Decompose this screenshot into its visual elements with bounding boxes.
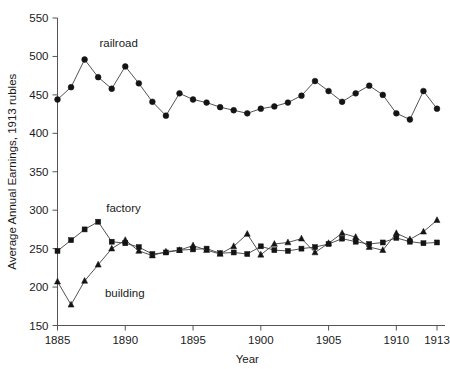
y-tick-label: 400: [29, 127, 48, 139]
data-point-circle: [177, 90, 183, 96]
data-point-circle: [95, 74, 101, 80]
y-tick-label: 550: [29, 12, 48, 24]
series-railroad: [55, 57, 440, 123]
data-point-circle: [366, 83, 372, 89]
data-point-circle: [122, 64, 128, 70]
data-point-triangle: [244, 231, 250, 237]
data-point-square: [82, 227, 87, 232]
data-point-square: [96, 219, 101, 224]
data-point-circle: [434, 106, 440, 112]
data-point-circle: [149, 99, 155, 105]
data-point-square: [245, 252, 250, 257]
series-layer: [55, 57, 441, 307]
data-point-square: [353, 239, 358, 244]
data-point-circle: [55, 97, 61, 103]
y-tick-label: 150: [29, 320, 48, 332]
data-point-square: [231, 250, 236, 255]
data-point-circle: [299, 93, 305, 99]
series-label-railroad: railroad: [100, 37, 138, 49]
y-tick-label: 500: [29, 50, 48, 62]
axes-layer: 1502002503003504004505005501885189018951…: [29, 12, 449, 346]
data-point-triangle: [298, 235, 304, 241]
data-point-circle: [271, 104, 277, 110]
data-point-triangle: [109, 245, 115, 251]
data-point-circle: [339, 99, 345, 105]
data-point-circle: [326, 88, 332, 94]
data-point-square: [380, 240, 385, 245]
x-tick-label: 1885: [45, 334, 71, 346]
data-point-triangle: [434, 217, 440, 223]
data-point-circle: [421, 88, 427, 94]
data-point-circle: [109, 86, 115, 92]
data-point-triangle: [55, 278, 61, 284]
y-axis-title: Average Annual Earnings, 1913 rubles: [6, 73, 18, 269]
data-point-circle: [231, 107, 237, 113]
data-point-triangle: [393, 230, 399, 236]
data-point-triangle: [190, 242, 196, 248]
data-point-square: [299, 246, 304, 251]
data-point-triangle: [68, 301, 74, 307]
y-tick-label: 450: [29, 89, 48, 101]
data-point-circle: [82, 57, 88, 63]
data-point-circle: [163, 113, 169, 119]
data-point-square: [285, 248, 290, 253]
x-tick-label: 1910: [384, 334, 410, 346]
labels-layer: YearAverage Annual Earnings, 1913 rubles…: [6, 37, 259, 364]
series-label-building: building: [105, 287, 145, 299]
x-tick-label: 1905: [316, 334, 342, 346]
y-tick-label: 250: [29, 243, 48, 255]
data-point-circle: [136, 80, 142, 86]
chart-container: 1502002503003504004505005501885189018951…: [0, 0, 450, 369]
data-point-circle: [217, 104, 223, 110]
data-point-triangle: [231, 243, 237, 249]
y-tick-label: 350: [29, 166, 48, 178]
data-point-circle: [190, 97, 196, 103]
axis-spines: [58, 18, 446, 326]
data-point-circle: [244, 110, 250, 116]
data-point-square: [421, 241, 426, 246]
earnings-line-chart: 1502002503003504004505005501885189018951…: [0, 0, 450, 369]
x-tick-label: 1890: [112, 334, 138, 346]
series-label-factory: factory: [106, 202, 141, 214]
data-point-circle: [258, 106, 264, 112]
data-point-circle: [204, 100, 210, 106]
data-point-triangle: [339, 230, 345, 236]
data-point-square: [258, 244, 263, 249]
data-point-triangle: [122, 237, 128, 243]
data-point-circle: [285, 100, 291, 106]
data-point-circle: [380, 92, 386, 98]
data-point-circle: [353, 90, 359, 96]
x-tick-label: 1900: [248, 334, 274, 346]
data-point-square: [272, 248, 277, 253]
data-point-square: [435, 240, 440, 245]
data-point-square: [55, 248, 60, 253]
data-point-circle: [407, 117, 413, 123]
data-point-triangle: [420, 228, 426, 234]
data-point-square: [109, 239, 114, 244]
y-tick-label: 300: [29, 204, 48, 216]
y-tick-label: 200: [29, 281, 48, 293]
x-tick-label: 1895: [180, 334, 206, 346]
data-point-square: [340, 236, 345, 241]
data-point-square: [69, 238, 74, 243]
x-axis-title: Year: [236, 353, 259, 365]
data-point-circle: [393, 110, 399, 116]
x-tick-label: 1913: [424, 334, 450, 346]
data-point-circle: [68, 84, 74, 90]
data-point-circle: [312, 78, 318, 84]
